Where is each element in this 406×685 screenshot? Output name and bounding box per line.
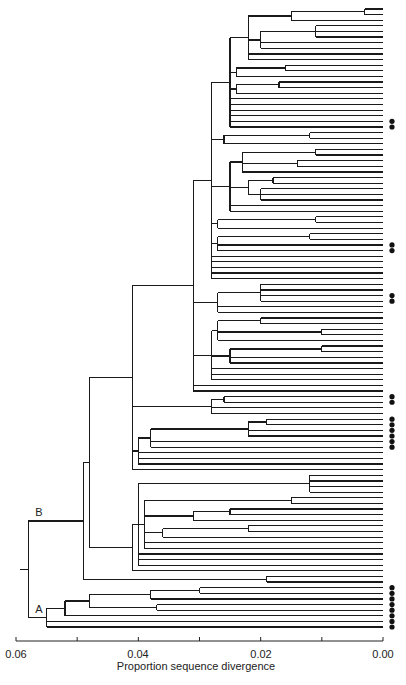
marker-dot [389,242,394,247]
marker-dot [389,400,394,405]
clade-label-b: B [35,506,42,518]
marker-dot [389,248,394,253]
marker-dot [389,293,394,298]
marker-dot [389,433,394,438]
tick-label-0-00: 0.00 [372,648,393,660]
marker-dot [389,585,394,590]
marker-dot [389,394,394,399]
marker-dot [389,422,394,427]
marker-dot [389,591,394,596]
tick-label-0-04: 0.04 [127,648,148,660]
marker-dot [389,428,394,433]
axis-title: Proportion sequence divergence [117,660,275,672]
marker-dot [389,445,394,450]
marker-dot [389,602,394,607]
tick-label-0-02: 0.02 [250,648,271,660]
tick-label-0-06: 0.06 [5,648,26,660]
tree-branches [20,9,383,627]
marker-dot [389,119,394,124]
marker-dot [389,417,394,422]
marker-dot [389,596,394,601]
x-axis [16,637,383,641]
marker-dot [389,439,394,444]
marker-dot [389,619,394,624]
clade-label-a: A [35,603,42,615]
marker-dots [389,119,394,630]
phylogenetic-tree [0,0,406,685]
marker-dot [389,608,394,613]
marker-dot [389,299,394,304]
marker-dot [389,624,394,629]
marker-dot [389,613,394,618]
marker-dot [389,124,394,129]
